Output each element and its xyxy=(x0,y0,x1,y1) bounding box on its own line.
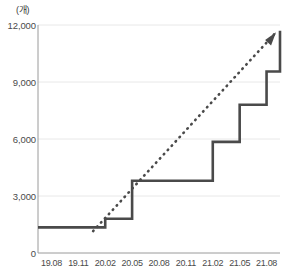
x-axis-tick-labels: 19.0819.1120.0220.0520.0820.1121.0221.05… xyxy=(0,258,286,274)
x-tick-label: 19.11 xyxy=(68,258,88,268)
x-tick-label: 21.08 xyxy=(256,258,277,268)
chart-plot-area xyxy=(0,0,286,276)
y-gridlines xyxy=(38,25,280,196)
x-tick-label: 20.02 xyxy=(95,258,116,268)
step-line-series xyxy=(38,31,280,228)
trend-dotted-line xyxy=(93,35,274,232)
x-tick-label: 21.02 xyxy=(202,258,223,268)
x-tick-label: 20.08 xyxy=(148,258,169,268)
x-tick-label: 20.05 xyxy=(122,258,143,268)
x-tick-label: 19.08 xyxy=(41,258,62,268)
x-tick-label: 21.05 xyxy=(229,258,250,268)
chart-container: (개) 03,0006,0009,00012,000 19.0819.1120.… xyxy=(0,0,286,276)
x-tick-label: 20.11 xyxy=(176,258,196,268)
